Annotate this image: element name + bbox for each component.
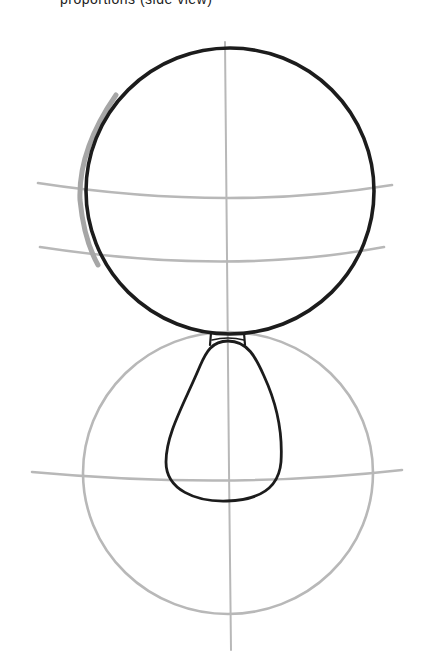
vertical-center-guide: [225, 42, 231, 650]
head-guide-upper: [38, 183, 392, 198]
torso-teardrop: [166, 341, 281, 501]
ink-lines: [86, 48, 374, 501]
guide-lines: [32, 42, 402, 650]
neck-right: [244, 333, 245, 345]
body-guide-horizontal: [32, 470, 402, 481]
construction-drawing: [0, 0, 426, 660]
neck-left: [210, 333, 211, 345]
head-circle: [86, 48, 374, 334]
